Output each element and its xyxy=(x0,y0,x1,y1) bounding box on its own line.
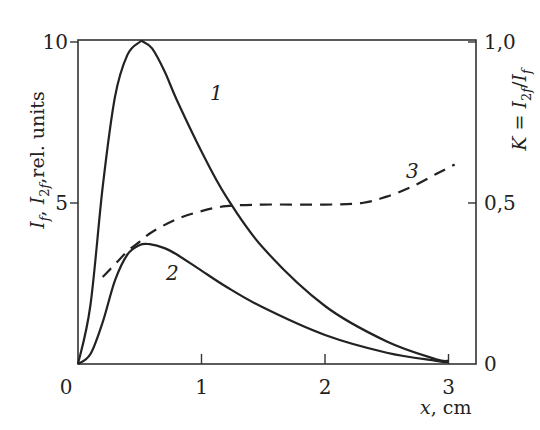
y-right-tick-label: 0 xyxy=(484,352,497,376)
y-right-axis-label: K = I2f/If xyxy=(508,67,534,152)
chart: 012351000,51,0123x, cmIf, I2f,rel. units… xyxy=(0,0,540,430)
y-right-tick-label: 0,5 xyxy=(484,191,516,215)
x-axis-label: x, cm xyxy=(420,396,471,418)
curve-label-1: 1 xyxy=(210,81,223,105)
curve-2 xyxy=(78,244,449,364)
curve-3 xyxy=(103,164,455,277)
curve-label-3: 3 xyxy=(406,159,419,183)
y-axis-label: If, I2f,rel. units xyxy=(26,91,52,230)
x-tick-label: 2 xyxy=(319,375,332,399)
curve-1 xyxy=(78,41,449,364)
curves xyxy=(78,41,455,364)
y-right-tick-label: 1,0 xyxy=(484,30,516,54)
y-tick-label: 10 xyxy=(43,30,68,54)
x-tick-label: 1 xyxy=(195,375,208,399)
curve-label-2: 2 xyxy=(165,261,179,285)
x-tick-label: 0 xyxy=(60,375,73,399)
axis-labels: 012351000,51,0123x, cmIf, I2f,rel. units… xyxy=(26,30,534,418)
plot-frame xyxy=(70,40,476,364)
y-tick-label: 5 xyxy=(55,191,68,215)
